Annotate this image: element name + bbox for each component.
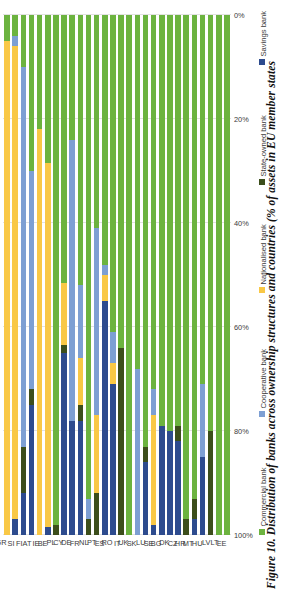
bar-segment — [200, 457, 206, 535]
bar-segment — [78, 421, 84, 535]
axis-tick-label: 0% — [234, 11, 245, 20]
bar-row — [61, 15, 67, 535]
bar-segment — [29, 405, 35, 535]
legend-label: Nationalised bank — [259, 224, 268, 284]
bar-segment — [61, 353, 67, 535]
legend-swatch — [259, 180, 265, 186]
bar-segment — [78, 405, 84, 421]
bar-segment — [200, 15, 206, 384]
bar-segment — [216, 15, 222, 535]
bar-row — [69, 15, 75, 535]
legend-item: Nationalised bank — [258, 224, 268, 293]
bar-segment — [102, 15, 108, 265]
bar-segment — [37, 15, 43, 129]
chart-legend: Commercial bankCooperative bankNationali… — [258, 15, 288, 535]
bar-segment — [12, 46, 18, 519]
figure: Figure 10. Distribution of banks across … — [0, 0, 289, 595]
legend-label: Savings bank — [259, 11, 268, 57]
bar-row — [53, 15, 59, 535]
bar-row — [86, 15, 92, 535]
category-label: SI — [8, 539, 15, 548]
bar-row — [45, 15, 51, 535]
bar-segment — [53, 525, 59, 535]
bar-segment — [61, 15, 67, 283]
bar-segment — [69, 140, 75, 421]
bar-segment — [143, 462, 149, 535]
bar-segment — [110, 332, 116, 363]
bar-row — [102, 15, 108, 535]
bar-segment — [143, 447, 149, 463]
bar-row — [175, 15, 181, 535]
bar-row — [94, 15, 100, 535]
bar-segment — [86, 15, 92, 499]
bar-segment — [151, 525, 157, 535]
bar-segment — [94, 228, 100, 415]
bar-segment — [37, 129, 43, 535]
bar-segment — [110, 15, 116, 332]
bar-row — [4, 15, 10, 535]
bar-segment — [78, 285, 84, 358]
bar-segment — [167, 15, 173, 431]
legend-label: State-owned bank — [259, 115, 268, 176]
bar-segment — [102, 301, 108, 535]
legend-item: Savings bank — [258, 11, 268, 65]
bar-row — [216, 15, 222, 535]
category-axis: GRSIFIATIEBEPLCYDEFRNLPTESROITUKSKLUSEBG… — [3, 539, 231, 595]
legend-item: Commercial bank — [258, 467, 268, 535]
bar-segment — [135, 15, 141, 369]
axis-tick-label: 60% — [234, 323, 249, 332]
bar-segment — [175, 441, 181, 535]
bar-segment — [4, 41, 10, 535]
bar-row — [208, 15, 214, 535]
bar-segment — [208, 15, 214, 431]
legend-item: State-owned bank — [258, 115, 268, 185]
bar-row — [21, 15, 27, 535]
bar-segment — [151, 415, 157, 524]
bar-row — [78, 15, 84, 535]
bar-segment — [175, 15, 181, 426]
bar-segment — [151, 389, 157, 415]
bar-segment — [126, 15, 132, 535]
bar-row — [110, 15, 116, 535]
value-axis: 100%80%60%40%20%0% — [232, 15, 258, 535]
legend-swatch — [259, 412, 265, 418]
category-label: AT — [22, 539, 31, 548]
axis-tick-label: 20% — [234, 115, 249, 124]
bar-row — [29, 15, 35, 535]
legend-item: Cooperative bank — [258, 349, 268, 417]
plot-area — [3, 15, 231, 535]
axis-tick-label: 100% — [234, 531, 253, 540]
bar-segment — [29, 15, 35, 171]
bar-segment — [143, 15, 149, 447]
bar-segment — [29, 389, 35, 405]
bar-row — [224, 15, 230, 535]
bar-row — [151, 15, 157, 535]
bar-row — [183, 15, 189, 535]
bar-segment — [208, 431, 214, 535]
bar-segment — [110, 363, 116, 384]
bar-segment — [192, 15, 198, 499]
bar-segment — [69, 421, 75, 535]
bar-segment — [21, 15, 27, 67]
category-label: EE — [217, 539, 227, 548]
bar-row — [135, 15, 141, 535]
legend-label: Cooperative bank — [259, 349, 268, 409]
bar-row — [167, 15, 173, 535]
bar-segment — [183, 15, 189, 519]
bar-segment — [94, 493, 100, 535]
bar-segment — [21, 447, 27, 494]
bar-segment — [224, 15, 230, 535]
bar-segment — [69, 15, 75, 140]
bar-row — [143, 15, 149, 535]
bar-segment — [45, 15, 51, 163]
bar-segment — [135, 369, 141, 535]
rotated-figure-wrapper: Figure 10. Distribution of banks across … — [0, 0, 289, 595]
bar-segment — [159, 15, 165, 426]
bar-segment — [192, 499, 198, 520]
bar-segment — [118, 348, 124, 535]
bar-row — [126, 15, 132, 535]
bar-segment — [167, 431, 173, 535]
bar-segment — [183, 519, 189, 535]
bar-segment — [78, 358, 84, 405]
bar-segment — [61, 345, 67, 353]
